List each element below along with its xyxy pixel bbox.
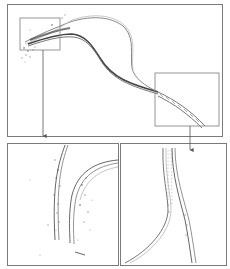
zoom-left-scatter bbox=[30, 159, 93, 255]
zoom-right-tracks bbox=[125, 148, 196, 263]
inset-box-left bbox=[20, 18, 60, 50]
zoom-left-tracks bbox=[54, 145, 118, 244]
overview-tracks bbox=[25, 16, 205, 128]
diagram-canvas bbox=[0, 0, 230, 269]
zoom-left-streak bbox=[75, 252, 85, 255]
